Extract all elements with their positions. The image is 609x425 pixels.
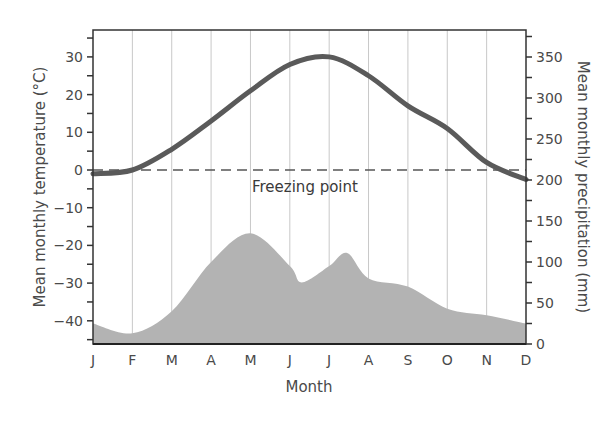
right-tick-label: 350 [536,49,563,65]
left-tick-label: −30 [53,275,83,291]
y-right-axis-title: Mean monthly precipitation (mm) [574,61,592,313]
left-tick-label: 30 [65,49,83,65]
left-axis-ticks: 3020100−10−20−30−40 [53,38,93,340]
precipitation-area [93,233,526,344]
month-label: S [403,352,412,368]
right-tick-label: 150 [536,213,563,229]
left-tick-label: 0 [74,162,83,178]
right-axis-ticks: 350300250200150100500 [526,37,563,353]
right-tick-label: 100 [536,254,563,270]
freezing-point-label: Freezing point [252,178,358,196]
right-tick-label: 50 [536,295,554,311]
month-label: F [128,352,136,368]
left-tick-label: −20 [53,237,83,253]
month-label: D [521,352,532,368]
month-label: O [442,352,453,368]
right-tick-label: 300 [536,90,563,106]
x-axis-title: Month [285,378,332,396]
month-label: M [244,352,256,368]
month-label: J [287,352,292,368]
month-label: J [90,352,95,368]
month-label: M [166,352,178,368]
right-tick-label: 0 [536,336,545,352]
left-tick-label: −40 [53,313,83,329]
month-label: A [206,352,216,368]
left-tick-label: −10 [53,200,83,216]
right-tick-label: 200 [536,172,563,188]
climate-chart: Freezing point 3020100−10−20−30−40 35030… [0,0,609,425]
month-label: J [326,352,331,368]
month-label: A [364,352,374,368]
right-tick-label: 250 [536,131,563,147]
left-tick-label: 10 [65,124,83,140]
month-tick-labels: JFMAMJJASOND [90,352,531,368]
y-left-axis-title: Mean monthly temperature (°C) [31,67,49,308]
left-tick-label: 20 [65,87,83,103]
temperature-line [93,56,526,179]
month-label: N [481,352,491,368]
